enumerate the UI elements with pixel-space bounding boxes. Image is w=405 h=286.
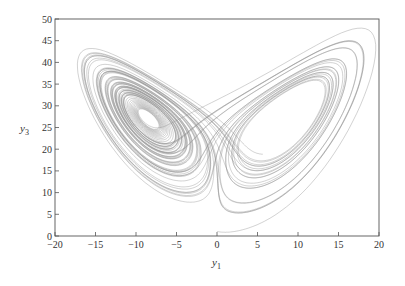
trajectory-line xyxy=(77,28,375,232)
y-tick-label: 5 xyxy=(47,209,52,220)
y-axis-ticks: 05101520253035404550 xyxy=(42,14,59,242)
y-tick-label: 20 xyxy=(42,144,52,155)
y-tick-label: 40 xyxy=(42,57,52,68)
x-tick-label: −5 xyxy=(171,239,182,250)
y-tick-label: 45 xyxy=(42,35,52,46)
x-tick-label: −10 xyxy=(128,239,144,250)
x-tick-label: 5 xyxy=(255,239,260,250)
x-tick-label: 20 xyxy=(374,239,384,250)
x-tick-label: 10 xyxy=(293,239,303,250)
y-tick-label: 10 xyxy=(42,187,52,198)
y-tick-label: 30 xyxy=(42,100,52,111)
x-tick-label: −15 xyxy=(88,239,104,250)
y-tick-label: 50 xyxy=(42,14,52,25)
x-axis-label: y1 xyxy=(211,256,221,271)
chart: −20−15−10−505101520 05101520253035404550… xyxy=(0,0,405,286)
x-tick-label: 0 xyxy=(215,239,220,250)
x-axis-ticks: −20−15−10−505101520 xyxy=(47,232,384,250)
x-tick-label: 15 xyxy=(334,239,344,250)
y-tick-label: 35 xyxy=(42,79,52,90)
y-tick-label: 0 xyxy=(47,231,52,242)
lorenz-trajectory xyxy=(77,28,375,232)
y-tick-label: 15 xyxy=(42,165,52,176)
y-axis-label: y3 xyxy=(19,122,29,137)
y-tick-label: 25 xyxy=(42,122,52,133)
